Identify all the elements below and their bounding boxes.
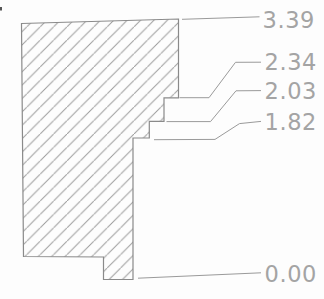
dimension-label-0-00: 0.00 (265, 261, 318, 287)
dimension-label-2-34: 2.34 (265, 49, 318, 75)
dimension-label-3-39: 3.39 (263, 7, 316, 33)
leader-line-3-39 (182, 17, 260, 20)
dimension-label-2-03: 2.03 (265, 78, 318, 104)
technical-drawing-page: 3.39 2.34 2.03 1.82 0.00 (0, 0, 324, 299)
dimension-label-1-82: 1.82 (265, 109, 318, 135)
leader-line-0-00 (138, 273, 261, 278)
leader-line-1-82 (154, 121, 261, 139)
section-drawing-svg: 3.39 2.34 2.03 1.82 0.00 (0, 0, 324, 299)
leader-line-2-03 (167, 91, 262, 122)
leader-line-2-34 (180, 62, 262, 97)
scan-artifact (0, 7, 2, 11)
part-cross-section-outline (22, 19, 179, 280)
